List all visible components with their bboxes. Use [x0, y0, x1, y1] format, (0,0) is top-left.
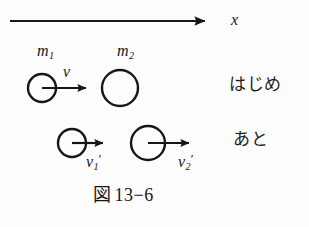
velocity-label-v2-subscript: 2: [185, 161, 191, 172]
figure-caption: 図13−6: [93, 186, 154, 204]
x-axis-label: x: [231, 12, 238, 28]
figure-caption-zu: 図: [93, 184, 115, 205]
figure-vector-layer: [0, 0, 309, 227]
velocity-label-v2-prime: v2′: [178, 153, 194, 172]
figure-caption-number: 13−6: [115, 185, 154, 205]
mass-label-m2-subscript: 2: [129, 50, 135, 61]
collision-figure: x m1 m2 v v1′ v2′ はじめ あと 図13−6: [0, 0, 309, 227]
velocity-label-v1-prime: v1′: [86, 153, 102, 172]
state-label-before: はじめ: [229, 76, 282, 93]
mass-label-m1: m1: [37, 43, 54, 62]
row-after-bodies: [58, 126, 189, 160]
state-label-after: あと: [233, 131, 269, 148]
mass-label-m2-base: m: [117, 42, 129, 59]
mass-label-m1-base: m: [37, 42, 49, 59]
velocity-label-v1-prime-mark: ′: [99, 152, 102, 166]
velocity-label-v1-subscript: 1: [93, 161, 99, 172]
velocity-label-v-base: v: [63, 63, 70, 80]
velocity-label-v: v: [63, 64, 70, 80]
velocity-label-v2-prime-mark: ′: [191, 152, 194, 166]
mass-label-m2: m2: [117, 43, 134, 62]
row-before-bodies: [28, 70, 138, 106]
x-axis-label-text: x: [231, 11, 238, 28]
mass-circle-m2-before: [102, 70, 138, 106]
mass-label-m1-subscript: 1: [49, 50, 55, 61]
